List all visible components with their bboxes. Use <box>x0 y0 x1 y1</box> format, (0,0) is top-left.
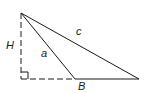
triangle-diagram <box>0 0 154 93</box>
label-side-c: c <box>76 26 82 37</box>
label-height-h: H <box>6 40 14 51</box>
label-point-b: B <box>78 81 85 92</box>
right-angle-marker <box>21 72 28 79</box>
label-side-a: a <box>41 48 47 59</box>
side-a-line <box>21 13 75 79</box>
side-c-line <box>21 13 139 79</box>
